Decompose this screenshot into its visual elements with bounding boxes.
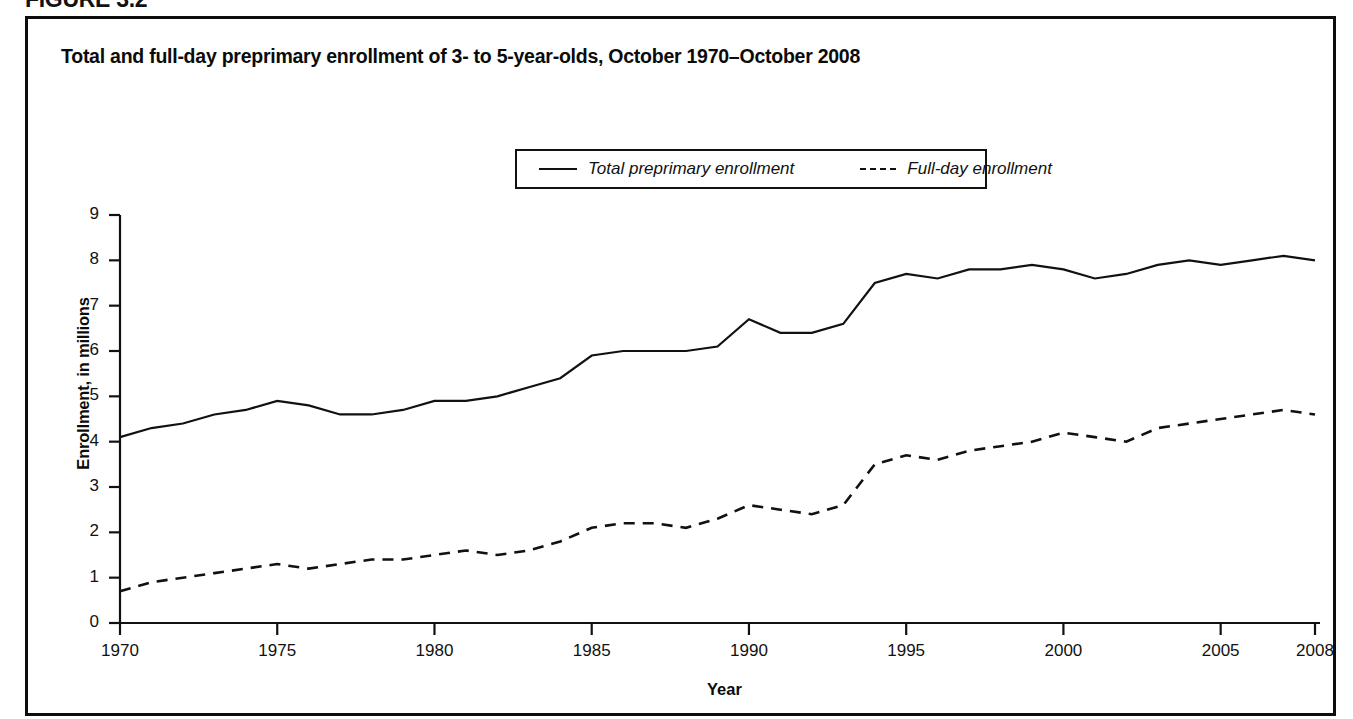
figure-frame: Total and full-day preprimary enrollment… <box>25 16 1336 716</box>
series-line-1 <box>120 256 1315 437</box>
axis-lines <box>109 215 1320 635</box>
figure-label: FIGURE 3.2 <box>25 0 147 13</box>
data-series-layer <box>120 256 1315 591</box>
series-line-2 <box>120 410 1315 591</box>
chart-plot-area <box>28 19 1339 719</box>
